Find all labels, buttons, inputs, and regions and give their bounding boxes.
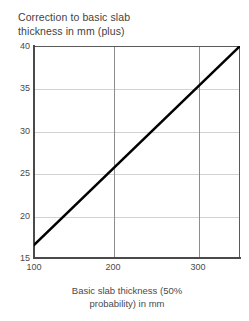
x-tick-label-100: 100	[19, 262, 49, 272]
y-tick-label-25: 25	[10, 168, 30, 178]
y-tick-label-30: 30	[10, 126, 30, 136]
x-tick-label-200: 200	[98, 262, 128, 272]
series-correction-line	[34, 46, 240, 245]
y-tick-label-35: 35	[10, 83, 30, 93]
x-tick-label-300: 300	[183, 262, 213, 272]
x-axis-label: Basic slab thickness (50% probability) i…	[22, 285, 232, 310]
chart-title: Correction to basic slab thickness in mm…	[18, 11, 238, 38]
y-tick-label-20: 20	[10, 211, 30, 221]
chart-container: Correction to basic slab thickness in mm…	[0, 0, 249, 321]
y-tick-label-40: 40	[10, 41, 30, 51]
data-line-series	[34, 46, 240, 258]
